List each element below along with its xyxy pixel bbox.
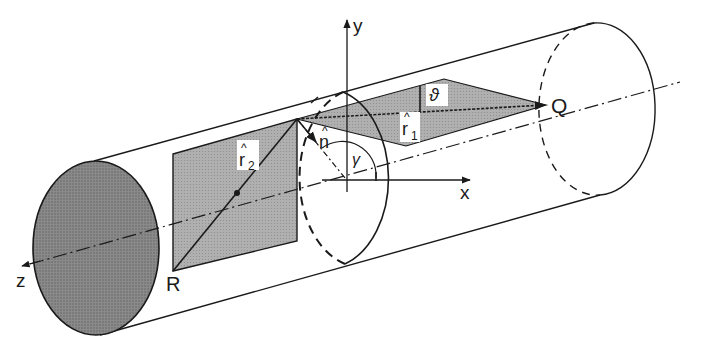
right-end-cap-back-arc <box>539 23 600 195</box>
r2-label: r <box>239 150 245 170</box>
point-r-label: R <box>166 273 180 295</box>
x-axis-label: x <box>460 182 470 203</box>
right-end-cap-front-arc <box>594 23 655 195</box>
y-axis-label: y <box>353 15 363 36</box>
r1-label: r <box>402 119 408 139</box>
z-axis-label: z <box>16 270 26 291</box>
theta-label: ϑ <box>429 85 440 105</box>
gamma-label: γ <box>352 151 361 168</box>
r2-midpoint-dot <box>234 190 240 196</box>
n-hat-label: n <box>319 132 329 152</box>
r1-subscript: 1 <box>411 129 418 143</box>
theta-plane <box>297 79 546 146</box>
r2-subscript: 2 <box>248 159 255 173</box>
left-end-cap <box>33 161 159 335</box>
point-q-label: Q <box>551 94 567 117</box>
cylinder-diagram: y x z Q R ϑ ^ r 1 ^ r 2 ^ n γ <box>0 0 714 343</box>
